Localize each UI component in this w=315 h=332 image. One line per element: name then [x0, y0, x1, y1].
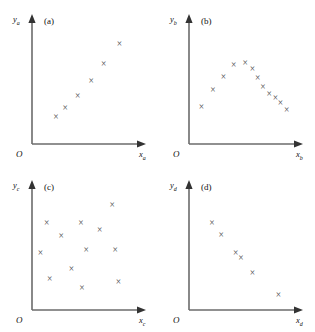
- data-point-marker: ×: [231, 60, 236, 70]
- panel-d-plot: O (d) yd xd ××××××: [157, 166, 314, 332]
- data-point-marker: ×: [89, 76, 94, 86]
- data-point-marker: ×: [219, 230, 224, 240]
- data-point-marker: ×: [276, 290, 281, 300]
- panel-d-points: ××××××: [209, 218, 281, 300]
- x-axis-arrow-icon: [294, 306, 303, 313]
- panel-b-axes: [185, 14, 303, 148]
- x-axis-label-c: xc: [138, 315, 146, 327]
- data-point-marker: ×: [284, 105, 289, 115]
- panel-d: O (d) yd xd ××××××: [157, 166, 314, 332]
- x-axis-arrow-icon: [137, 140, 146, 147]
- panel-tag-c: (c): [44, 182, 54, 192]
- data-point-marker: ×: [117, 39, 122, 49]
- data-point-marker: ×: [260, 82, 265, 92]
- data-point-marker: ×: [63, 103, 68, 113]
- origin-label: O: [173, 149, 180, 159]
- data-point-marker: ×: [109, 200, 114, 210]
- y-axis-arrow-icon: [185, 14, 192, 23]
- data-point-marker: ×: [278, 98, 283, 108]
- data-point-marker: ×: [242, 58, 247, 68]
- panel-d-axes: [185, 180, 303, 314]
- data-point-marker: ×: [38, 248, 43, 258]
- y-axis-label-d: yd: [169, 180, 178, 192]
- y-axis-arrow-icon: [28, 180, 35, 189]
- data-point-marker: ×: [113, 245, 118, 255]
- origin-label: O: [16, 315, 23, 325]
- panel-b-points: ××××××××××××: [199, 58, 290, 115]
- data-point-marker: ×: [210, 85, 215, 95]
- x-axis-arrow-icon: [294, 140, 303, 147]
- data-point-marker: ×: [58, 231, 63, 241]
- origin-label: O: [16, 149, 23, 159]
- scatter-diagram-figure: O (a) ya xa ×××××× O (b) yb xb ×××××××××…: [0, 0, 315, 332]
- data-point-marker: ×: [97, 225, 102, 235]
- panel-c-plot: O (c) yc xc ××××××××××××: [0, 166, 157, 332]
- panel-a-points: ××××××: [53, 39, 122, 122]
- data-point-marker: ×: [44, 218, 49, 228]
- y-axis-label-b: yb: [169, 14, 177, 26]
- data-point-marker: ×: [83, 245, 88, 255]
- y-axis-arrow-icon: [185, 180, 192, 189]
- panel-tag-b: (b): [201, 16, 212, 26]
- y-axis-label-a: ya: [12, 14, 20, 26]
- data-point-marker: ×: [69, 264, 74, 274]
- data-point-marker: ×: [79, 283, 84, 293]
- data-point-marker: ×: [75, 91, 80, 101]
- data-point-marker: ×: [78, 218, 83, 228]
- panel-tag-d: (d): [201, 182, 212, 192]
- x-axis-arrow-icon: [137, 306, 146, 313]
- x-axis-label-d: xd: [295, 315, 304, 327]
- y-axis-arrow-icon: [28, 14, 35, 23]
- panel-b: O (b) yb xb ××××××××××××: [157, 0, 314, 166]
- panel-c-points: ××××××××××××: [38, 200, 121, 293]
- data-point-marker: ×: [199, 102, 204, 112]
- panel-c: O (c) yc xc ××××××××××××: [0, 166, 157, 332]
- panel-a-axes: [28, 14, 146, 148]
- data-point-marker: ×: [238, 253, 243, 263]
- data-point-marker: ×: [101, 59, 106, 69]
- panel-a: O (a) ya xa ××××××: [0, 0, 157, 166]
- data-point-marker: ×: [266, 89, 271, 99]
- data-point-marker: ×: [53, 112, 58, 122]
- data-point-marker: ×: [250, 268, 255, 278]
- panel-b-plot: O (b) yb xb ××××××××××××: [157, 0, 314, 166]
- y-axis-label-c: yc: [12, 180, 20, 192]
- data-point-marker: ×: [116, 277, 121, 287]
- x-axis-label-a: xa: [138, 149, 146, 161]
- panel-tag-a: (a): [44, 16, 54, 26]
- data-point-marker: ×: [221, 72, 226, 82]
- data-point-marker: ×: [209, 218, 214, 228]
- panel-a-plot: O (a) ya xa ××××××: [0, 0, 157, 166]
- data-point-marker: ×: [47, 274, 52, 284]
- origin-label: O: [173, 315, 180, 325]
- x-axis-label-b: xb: [295, 149, 303, 161]
